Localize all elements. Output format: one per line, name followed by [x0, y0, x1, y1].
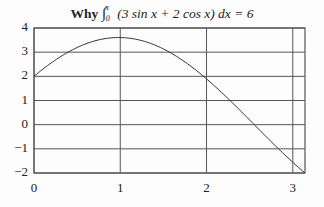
x-tick-label: 3	[283, 181, 303, 195]
x-tick-label: 0	[24, 181, 44, 195]
x-tick-label: 2	[197, 181, 217, 195]
y-tick-label: −1	[2, 141, 28, 155]
y-tick-label: 0	[2, 117, 28, 131]
y-tick-label: 2	[2, 68, 28, 82]
function-curve	[34, 38, 305, 173]
y-tick-label: 4	[2, 20, 28, 34]
x-tick-label: 1	[110, 181, 130, 195]
y-tick-label: 1	[2, 93, 28, 107]
plot-area	[0, 0, 324, 207]
gridlines	[34, 28, 305, 173]
y-tick-label: 3	[2, 44, 28, 58]
y-tick-label: −2	[2, 165, 28, 179]
